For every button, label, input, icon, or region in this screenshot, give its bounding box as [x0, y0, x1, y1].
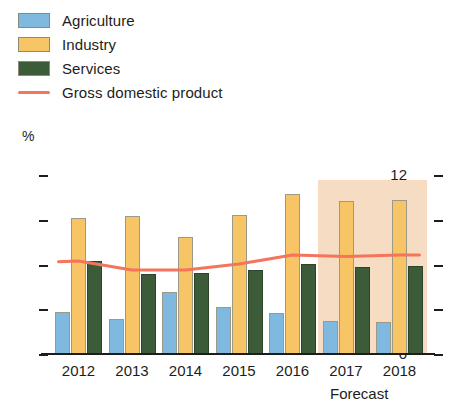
legend-item[interactable]: Industry [18, 32, 223, 56]
x-axis-label-2018: 2018 [370, 362, 430, 379]
x-axis-label-2012: 2012 [49, 362, 109, 379]
plot-area: 129630 [55, 176, 427, 355]
y-axis-unit-label: % [22, 128, 34, 144]
legend-item[interactable]: Agriculture [18, 8, 223, 32]
y-tick-mark-right [434, 220, 443, 222]
legend-swatch-services [18, 61, 50, 76]
chart-legend: AgricultureIndustryServicesGross domesti… [18, 8, 223, 104]
y-tick-mark-left [39, 220, 48, 222]
x-axis-label-2017: 2017 [316, 362, 376, 379]
legend-item[interactable]: Gross domestic product [18, 80, 223, 104]
x-axis-baseline [41, 353, 435, 355]
y-tick-mark-left [39, 175, 48, 177]
x-axis-label-2015: 2015 [209, 362, 269, 379]
x-axis-label-2013: 2013 [102, 362, 162, 379]
gdp-polyline [59, 255, 420, 270]
legend-item-label: Gross domestic product [62, 84, 223, 101]
y-tick-mark-left [39, 309, 48, 311]
y-tick-mark-right [434, 309, 443, 311]
y-tick-mark-right [434, 354, 443, 356]
legend-item-label: Services [62, 60, 120, 77]
x-axis-label-2016: 2016 [263, 362, 323, 379]
y-tick-mark-right [434, 175, 443, 177]
x-axis-label-2014: 2014 [156, 362, 216, 379]
legend-item[interactable]: Services [18, 56, 223, 80]
legend-line-gdp [18, 85, 50, 100]
y-tick-mark-right [434, 265, 443, 267]
legend-swatch-agriculture [18, 13, 50, 28]
legend-item-label: Industry [62, 36, 116, 53]
legend-swatch-industry [18, 37, 50, 52]
y-tick-mark-left [39, 265, 48, 267]
legend-item-label: Agriculture [62, 12, 135, 29]
gdp-line-series [55, 176, 427, 355]
forecast-note-label: Forecast [330, 385, 388, 402]
